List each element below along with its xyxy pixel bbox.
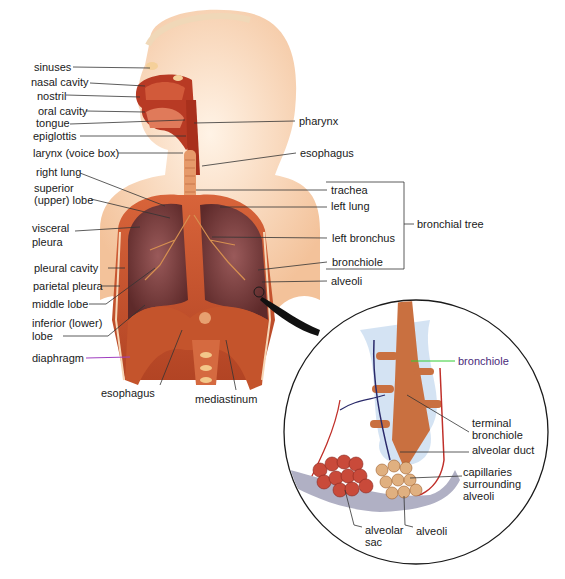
label-larynx: larynx (voice box) [33, 147, 119, 159]
label-middle-lobe: middle lobe [32, 298, 88, 310]
label-alveolar-sac-line2: sac [365, 536, 382, 548]
label-nostril: nostril [37, 90, 66, 102]
label-inferior-lobe-line1: inferior (lower) [32, 317, 102, 329]
respiratory-diagram: sinuses nasal cavity nostril oral cavity… [0, 0, 565, 579]
label-left-bronchus: left bronchus [332, 232, 395, 244]
label-diaphragm: diaphragm [32, 352, 84, 364]
label-capillaries-line1: capillaries [463, 466, 512, 478]
chest-cavity [112, 195, 275, 390]
label-sinuses: sinuses [34, 61, 71, 73]
label-bronchial-tree: bronchial tree [417, 218, 484, 230]
label-inset-alveoli: alveoli [416, 525, 447, 537]
label-bronchiole: bronchiole [332, 256, 383, 268]
label-alveoli: alveoli [331, 275, 362, 287]
label-nasal-cavity: nasal cavity [31, 76, 88, 88]
label-oral-cavity: oral cavity [38, 105, 88, 117]
label-esophagus-upper: esophagus [300, 147, 354, 159]
label-right-lung: right lung [36, 166, 81, 178]
label-inset-bronchiole: bronchiole [458, 355, 509, 367]
label-mediastinum: mediastinum [195, 393, 257, 405]
label-esophagus-lower: esophagus [101, 387, 155, 399]
label-visceral-pleura-line1: visceral [32, 222, 69, 234]
label-terminal-bronchiole-line2: bronchiole [472, 429, 523, 441]
label-epiglottis: epiglottis [33, 130, 76, 142]
label-pleural-cavity: pleural cavity [34, 262, 98, 274]
label-capillaries-line3: alveoli [463, 490, 494, 502]
label-pharynx: pharynx [299, 115, 338, 127]
label-alveolar-duct: alveolar duct [472, 444, 534, 456]
label-left-lung: left lung [331, 200, 370, 212]
label-superior-lobe-line2: (upper) lobe [34, 194, 93, 206]
label-terminal-bronchiole-line1: terminal [472, 417, 511, 429]
label-visceral-pleura-line2: pleura [32, 236, 63, 248]
label-capillaries-line2: surrounding [463, 478, 521, 490]
label-parietal-pleura: parietal pleura [33, 280, 103, 292]
label-superior-lobe-line1: superior [34, 182, 74, 194]
label-tongue: tongue [36, 117, 70, 129]
label-inferior-lobe-line2: lobe [32, 330, 53, 342]
label-trachea: trachea [331, 184, 368, 196]
label-alveolar-sac-line1: alveolar [365, 524, 404, 536]
